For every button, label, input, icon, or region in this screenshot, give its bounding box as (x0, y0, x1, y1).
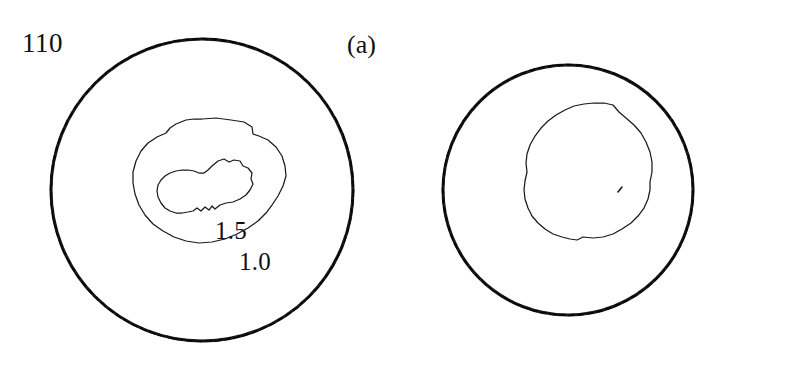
panel-b-contour-1p5-tick (618, 187, 622, 192)
panel-b-outer-circle (443, 65, 694, 316)
pole-figure-panel-b: 012 (b) 1.5 1.0 (399, 0, 799, 365)
panel-a-tag: (a) (347, 32, 376, 58)
panel-a-contour-label-1p5: 1.5 (215, 218, 247, 243)
figure-root: 110 (a) 1.5 1.0 012 (b) 1.5 1.0 (0, 0, 799, 365)
pole-figure-panel-a: 110 (a) 1.5 1.0 (0, 0, 400, 365)
panel-a-contour-1p0 (133, 118, 286, 243)
panel-a-contour-label-1p0: 1.0 (239, 249, 271, 274)
panel-b-contour-1p0 (524, 103, 652, 240)
panel-b-plot (399, 0, 799, 365)
panel-a-contour-1p5 (157, 159, 253, 213)
panel-a-outer-circle (51, 39, 354, 342)
panel-a-miller-index: 110 (22, 30, 63, 57)
